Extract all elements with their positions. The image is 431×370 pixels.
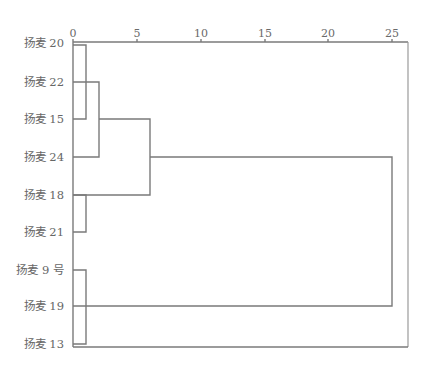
tick-label-5: 5: [134, 27, 141, 40]
tick-label-10: 10: [194, 27, 208, 40]
leaf-labels: 扬麦 20 扬麦 22 扬麦 15 扬麦 24 扬麦 18 扬麦 21 扬麦 9…: [16, 36, 64, 351]
leaf-label: 扬麦 18: [24, 188, 64, 202]
tick-label-15: 15: [258, 27, 272, 40]
leaf-label: 扬麦 9 号: [16, 263, 64, 277]
link-18-21: [73, 195, 86, 232]
leaf-label: 扬麦 13: [24, 337, 64, 351]
dendrogram-chart: 0 5 10 15 20 25 扬麦 20 扬麦 22 扬麦 15 扬麦 24 …: [0, 0, 431, 370]
leaf-label: 扬麦 15: [24, 112, 64, 126]
link-root-25: [73, 157, 392, 306]
tick-label-25: 25: [385, 27, 399, 40]
link-9-13: [73, 270, 86, 344]
tick-label-0: 0: [70, 27, 77, 40]
dendrogram-links: [73, 45, 392, 344]
leaf-label: 扬麦 19: [24, 299, 64, 313]
leaf-label: 扬麦 21: [24, 225, 64, 239]
x-axis: 0 5 10 15 20 25: [70, 27, 400, 42]
tick-label-20: 20: [321, 27, 335, 40]
leaf-label: 扬麦 20: [24, 36, 64, 50]
leaf-label: 扬麦 22: [24, 75, 64, 89]
leaf-label: 扬麦 24: [24, 150, 64, 164]
